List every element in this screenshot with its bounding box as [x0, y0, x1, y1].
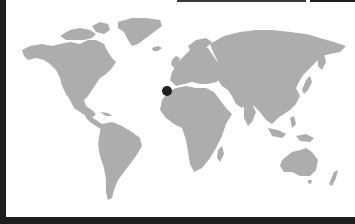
arctic-islands — [60, 28, 96, 40]
continent-north-america — [22, 40, 116, 118]
philippines — [290, 116, 296, 128]
world-map-svg — [6, 2, 355, 217]
new-zealand — [329, 170, 338, 186]
new-guinea — [296, 134, 314, 142]
india — [244, 104, 256, 126]
tasmania — [308, 180, 312, 184]
continent-asia — [210, 30, 346, 124]
caribbean — [100, 112, 112, 116]
arctic-islands-east — [92, 22, 110, 34]
southeast-asia-islands — [268, 128, 286, 138]
madagascar — [217, 146, 224, 162]
continent-australia — [280, 148, 318, 176]
japan — [302, 76, 312, 94]
location-marker[interactable] — [162, 86, 172, 96]
continent-south-america — [98, 122, 142, 200]
world-map[interactable] — [6, 2, 355, 217]
greenland — [118, 18, 162, 46]
iceland — [152, 46, 162, 51]
window-frame-bottom — [0, 217, 355, 224]
